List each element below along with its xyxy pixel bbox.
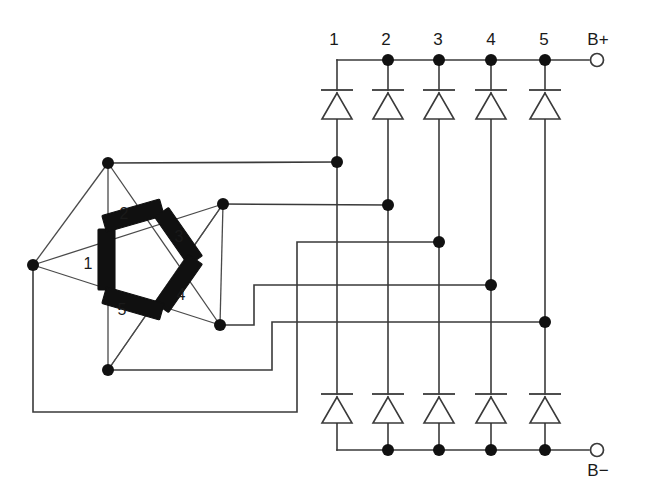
pentagon-coils: [98, 199, 202, 320]
diode-top-5: [529, 90, 561, 119]
junction-dot-top-4: [485, 54, 497, 66]
terminal-b-minus: [591, 444, 604, 457]
diode-top-1: [321, 90, 353, 119]
tap-junction-dot-4: [485, 279, 497, 291]
junction-dot-top-3: [433, 54, 445, 66]
diode-top-5-anode-triangle: [530, 93, 560, 119]
diode-bottom-5: [529, 394, 561, 423]
pentagon-node-lower-right: [214, 319, 226, 331]
coil-1-body: [98, 229, 115, 290]
tap-wire-5: [108, 322, 545, 370]
diode-top-2-anode-triangle: [373, 93, 403, 119]
terminal-label-b-minus: B−: [587, 461, 608, 480]
phase-label-3: 3: [433, 30, 442, 49]
junction-dot-top-2: [382, 54, 394, 66]
top-rail: [337, 54, 604, 67]
tap-wire-1: [108, 162, 337, 163]
diode-bottom-2-anode-triangle: [373, 397, 403, 423]
circuit-diagram: 1 2 3 4 5 B+ B−: [0, 0, 645, 491]
junction-dot-top-5: [539, 54, 551, 66]
diode-bottom-4-anode-triangle: [476, 397, 506, 423]
coil-label-3: 3: [175, 228, 184, 245]
diode-top-4: [475, 90, 507, 119]
terminal-label-b-plus: B+: [587, 30, 608, 49]
diode-bottom-4: [475, 394, 507, 423]
tap-wire-2: [223, 204, 388, 205]
junction-dot-bottom-5: [539, 444, 551, 456]
coil-5-body: [102, 287, 164, 320]
tap-junction-dot-2: [382, 199, 394, 211]
bottom-rail: [337, 444, 604, 457]
coil-label-2: 2: [120, 205, 129, 222]
diode-bottom-3: [423, 394, 455, 423]
coil-5: [102, 287, 164, 320]
coil-label-1: 1: [84, 255, 93, 272]
coil-label-5: 5: [118, 301, 127, 318]
diode-top-1-anode-triangle: [322, 93, 352, 119]
diode-bottom-1-anode-triangle: [322, 397, 352, 423]
diode-bottom-1: [321, 394, 353, 423]
phase-label-1: 1: [329, 30, 338, 49]
junction-dot-bottom-4: [485, 444, 497, 456]
pentagon-node-bottom: [102, 364, 114, 376]
phase-label-4: 4: [486, 30, 495, 49]
phase-label-5: 5: [539, 30, 548, 49]
star-edge-right-vertical: [220, 204, 223, 325]
diode-top-3: [423, 90, 455, 119]
pentagon-node-left: [27, 259, 39, 271]
coil-2-body: [102, 199, 164, 232]
coil-label-4: 4: [177, 286, 186, 303]
tap-junction-dot-1: [331, 156, 343, 168]
diode-top-3-anode-triangle: [424, 93, 454, 119]
tap-junction-dot-5: [539, 316, 551, 328]
tap-wire-4: [220, 285, 491, 325]
top-diode-bank: [321, 90, 561, 119]
tap-junction-dot-3: [433, 236, 445, 248]
junction-dot-bottom-2: [382, 444, 394, 456]
terminal-b-plus: [591, 54, 604, 67]
diode-bottom-3-anode-triangle: [424, 397, 454, 423]
pentagon-node-upper-right: [217, 198, 229, 210]
phase-label-2: 2: [381, 30, 390, 49]
star-edge-left-upper: [33, 163, 108, 265]
junction-dot-bottom-3: [433, 444, 445, 456]
pentagon-node-top: [102, 157, 114, 169]
tap-wire-3: [33, 242, 439, 412]
coil-1: [98, 229, 115, 290]
bottom-diode-bank: [321, 394, 561, 423]
diode-top-2: [372, 90, 404, 119]
diode-top-4-anode-triangle: [476, 93, 506, 119]
coil-2: [102, 199, 164, 232]
diode-bottom-2: [372, 394, 404, 423]
phase-number-labels: 1 2 3 4 5: [329, 30, 548, 49]
diode-bottom-5-anode-triangle: [530, 397, 560, 423]
